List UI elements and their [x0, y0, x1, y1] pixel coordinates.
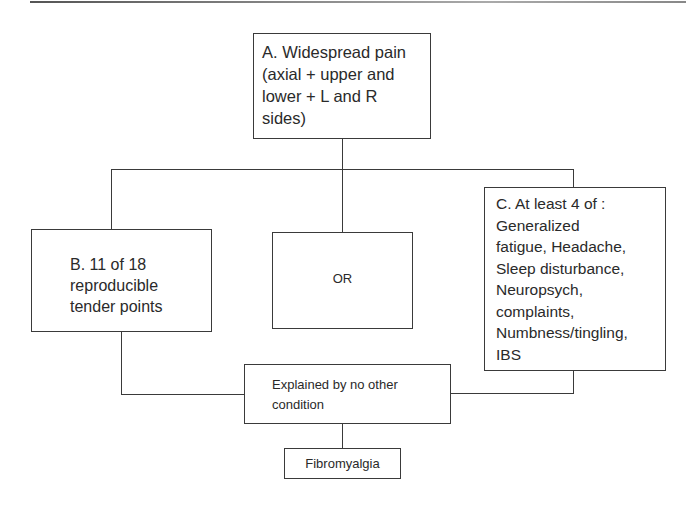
top-rule: [30, 1, 686, 3]
connector-to-or: [342, 169, 343, 232]
node-exclusion: Explained by no other condition: [244, 364, 451, 424]
node-tender-points: B. 11 of 18 reproducible tender points: [31, 229, 212, 332]
connector-a-down: [342, 139, 343, 170]
node-symptoms: C. At least 4 of : Generalized fatigue, …: [484, 187, 666, 371]
connector-to-b: [111, 169, 112, 229]
connector-to-c: [573, 169, 574, 187]
node-widespread-pain-label: A. Widespread pain (axial + upper and lo…: [262, 41, 406, 129]
node-symptoms-label: C. At least 4 of : Generalized fatigue, …: [496, 193, 628, 365]
node-fibromyalgia: Fibromyalgia: [284, 448, 401, 479]
connector-excl-to-result: [342, 424, 343, 448]
node-tender-points-label: B. 11 of 18 reproducible tender points: [70, 254, 163, 317]
connector-b-down: [121, 332, 122, 395]
connector-c-down: [573, 371, 574, 394]
connector-b-to-excl: [121, 394, 244, 395]
node-widespread-pain: A. Widespread pain (axial + upper and lo…: [253, 33, 431, 139]
node-or: OR: [272, 232, 413, 329]
connector-c-to-excl: [451, 393, 574, 394]
node-exclusion-label: Explained by no other condition: [272, 375, 398, 415]
node-or-label: OR: [273, 271, 412, 286]
node-fibromyalgia-label: Fibromyalgia: [285, 456, 400, 471]
